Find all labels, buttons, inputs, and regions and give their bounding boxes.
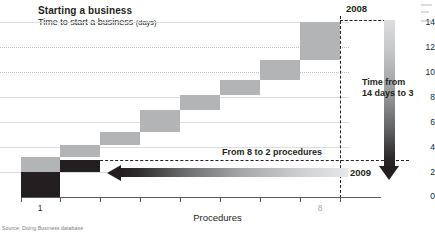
ytick-label-8: 8: [418, 93, 435, 101]
xtick-7: [300, 197, 301, 202]
annotation-time-line1: Time from: [362, 77, 405, 87]
bar-2008-1: [21, 157, 60, 172]
ytick-label-6: 6: [418, 118, 435, 126]
chart-figure: Starting a business Time to start a busi…: [0, 0, 435, 235]
xtick-6: [260, 197, 261, 202]
bar-2008-8: [300, 22, 340, 60]
x-axis-line: [21, 197, 381, 198]
xtick-1: [60, 197, 61, 202]
ytick-label-10: 10: [418, 68, 435, 76]
time-reduction-arrowhead-icon: [379, 166, 399, 180]
procedure-reduction-arrowhead-icon: [107, 165, 121, 181]
xtick-3: [140, 197, 141, 202]
x-axis-title: Procedures: [0, 212, 435, 223]
ytick-label-2: 2: [418, 168, 435, 176]
ytick-label-4: 4: [418, 143, 435, 151]
label-year-2009: 2009: [350, 167, 371, 178]
ytick-label-0: 0: [418, 192, 435, 200]
xtick-2: [100, 197, 101, 202]
bar-2008-7: [260, 60, 300, 80]
annotation-time-line2: 14 days to 3: [362, 88, 414, 98]
xtick-4: [180, 197, 181, 202]
bar-2008-4: [140, 110, 180, 133]
xtick-0: [21, 197, 22, 202]
annotation-time-reduction: Time from 14 days to 3: [362, 77, 414, 99]
gridline-8: [0, 97, 349, 98]
bar-2008-3: [100, 132, 140, 145]
bar-2008-2: [60, 145, 100, 158]
xtick-5: [220, 197, 221, 202]
label-year-2008: 2008: [346, 3, 367, 14]
page-edge-fragment: [421, 4, 435, 56]
reference-line-y3: [60, 160, 409, 161]
chart-title: Starting a business: [38, 5, 132, 16]
bar-2009-1: [21, 172, 60, 197]
bar-2008-5: [180, 95, 220, 110]
gridline-12: [0, 47, 349, 48]
reference-line-2008: [340, 20, 386, 21]
annotation-procedure-reduction: From 8 to 2 procedures: [222, 147, 322, 158]
xtick-8: [340, 197, 341, 202]
bar-2009-2: [60, 160, 100, 173]
source-note: Source: Doing Business database: [2, 225, 83, 231]
gridline-14: [0, 22, 349, 23]
procedure-reduction-arrow: [120, 168, 348, 177]
bar-2008-6: [220, 80, 260, 95]
